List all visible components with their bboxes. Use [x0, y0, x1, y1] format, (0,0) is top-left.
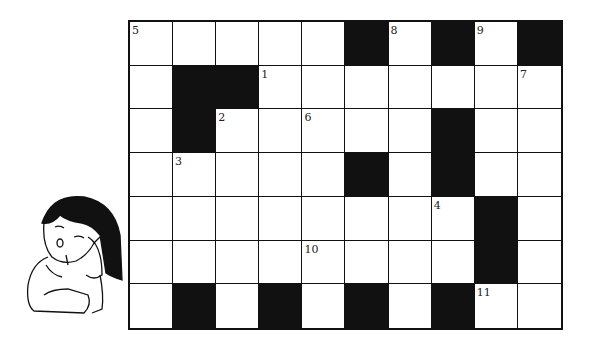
clue-number: 6: [304, 112, 311, 123]
clue-number: 5: [132, 25, 139, 36]
thinking-girl-icon: [22, 185, 127, 325]
crossword-cell[interactable]: [130, 109, 173, 153]
clue-number: 9: [477, 25, 484, 36]
crossword-cell[interactable]: [518, 109, 561, 153]
crossword-block: [345, 22, 388, 66]
crossword-cell[interactable]: [345, 197, 388, 241]
crossword-cell[interactable]: [389, 66, 432, 110]
crossword-cell[interactable]: 5: [130, 22, 173, 66]
crossword-cell[interactable]: [302, 66, 345, 110]
crossword-cell[interactable]: [302, 22, 345, 66]
crossword-cell[interactable]: [216, 241, 259, 285]
crossword-cell[interactable]: [389, 109, 432, 153]
crossword-cell[interactable]: 9: [475, 22, 518, 66]
clue-number: 2: [218, 112, 225, 123]
crossword-block: [345, 153, 388, 197]
crossword-block: [432, 22, 475, 66]
crossword-cell[interactable]: [432, 66, 475, 110]
crossword-block: [475, 197, 518, 241]
crossword-cell[interactable]: 6: [302, 109, 345, 153]
crossword-block: [432, 153, 475, 197]
crossword-cell[interactable]: 10: [302, 241, 345, 285]
crossword-cell[interactable]: [389, 284, 432, 328]
crossword-cell[interactable]: [389, 153, 432, 197]
crossword-cell[interactable]: [130, 241, 173, 285]
crossword-cell[interactable]: [518, 284, 561, 328]
crossword-block: [475, 241, 518, 285]
crossword-block: [345, 284, 388, 328]
crossword-cell[interactable]: [216, 22, 259, 66]
crossword-cell[interactable]: [432, 241, 475, 285]
crossword-cell[interactable]: [259, 22, 302, 66]
crossword-cell[interactable]: [259, 197, 302, 241]
crossword-block: [518, 22, 561, 66]
crossword-cell[interactable]: [475, 66, 518, 110]
crossword-cell[interactable]: [475, 109, 518, 153]
crossword-cell[interactable]: 2: [216, 109, 259, 153]
crossword-cell[interactable]: [173, 241, 216, 285]
crossword-cell[interactable]: 7: [518, 66, 561, 110]
clue-number: 7: [520, 69, 527, 80]
clue-number: 8: [391, 25, 398, 36]
crossword-block: [259, 284, 302, 328]
crossword-cell[interactable]: 11: [475, 284, 518, 328]
crossword-cell[interactable]: [475, 153, 518, 197]
crossword-cell[interactable]: [259, 109, 302, 153]
crossword-block: [432, 284, 475, 328]
crossword-cell[interactable]: [345, 66, 388, 110]
crossword-cell[interactable]: [173, 197, 216, 241]
clue-number: 11: [477, 287, 491, 298]
crossword-cell[interactable]: 1: [259, 66, 302, 110]
crossword-cell[interactable]: 3: [173, 153, 216, 197]
crossword-cell[interactable]: [302, 197, 345, 241]
crossword-cell[interactable]: [259, 241, 302, 285]
crossword-cell[interactable]: [173, 22, 216, 66]
crossword-cell[interactable]: [216, 284, 259, 328]
crossword-cell[interactable]: [518, 153, 561, 197]
crossword-cell[interactable]: [216, 153, 259, 197]
crossword-cell[interactable]: [345, 241, 388, 285]
crossword-cell[interactable]: [259, 153, 302, 197]
crossword-block: [173, 284, 216, 328]
crossword-block: [173, 66, 216, 110]
crossword-cell[interactable]: [302, 153, 345, 197]
clue-number: 10: [304, 244, 318, 255]
crossword-cell[interactable]: 8: [389, 22, 432, 66]
clue-number: 1: [261, 69, 268, 80]
crossword-cell[interactable]: 4: [432, 197, 475, 241]
crossword-cell[interactable]: [130, 153, 173, 197]
crossword-cell[interactable]: [130, 197, 173, 241]
crossword-cell[interactable]: [345, 109, 388, 153]
crossword-cell[interactable]: [518, 197, 561, 241]
crossword-cell[interactable]: [389, 241, 432, 285]
crossword-grid: 5891726341011: [128, 20, 563, 330]
crossword-cell[interactable]: [302, 284, 345, 328]
crossword-cell[interactable]: [518, 241, 561, 285]
crossword-cell[interactable]: [216, 197, 259, 241]
crossword-block: [432, 109, 475, 153]
clue-number: 3: [175, 156, 182, 167]
crossword-cell[interactable]: [389, 197, 432, 241]
clue-number: 4: [434, 200, 441, 211]
crossword-block: [173, 109, 216, 153]
crossword-cell[interactable]: [130, 66, 173, 110]
crossword-block: [216, 66, 259, 110]
crossword-cell[interactable]: [130, 284, 173, 328]
